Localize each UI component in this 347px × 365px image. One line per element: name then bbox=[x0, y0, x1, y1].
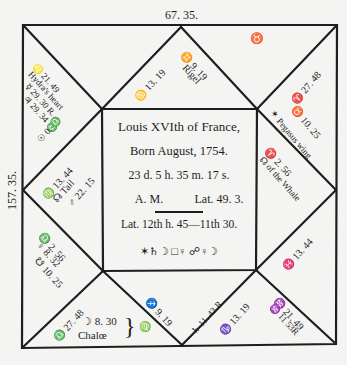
house-lower-left-star: Chalœ bbox=[78, 330, 107, 341]
birth-time: 23 d. 5 h. 35 m. 17 s. bbox=[103, 169, 255, 181]
house-latitudes: Lat. 12th h. 45—11th 30. bbox=[103, 219, 255, 231]
house-lower-left-sign: ♍ bbox=[139, 322, 151, 332]
top-degree: 67. 35. bbox=[165, 9, 198, 21]
center-info-box: Louis XVIth of France, Born August, 1754… bbox=[103, 110, 255, 270]
birth-date: Born August, 1754. bbox=[103, 145, 255, 158]
left-degree: 157. 35. bbox=[6, 171, 18, 210]
aspects-line: ✶♄☽ □♀ ☍♀☽ bbox=[103, 246, 255, 257]
house-top-right-tri: ♉ bbox=[250, 33, 264, 44]
divider-rule bbox=[155, 211, 203, 213]
subject-title: Louis XVIth of France, bbox=[103, 120, 255, 133]
house-lower-left-moon: ☽ 8. 30 bbox=[82, 316, 117, 327]
latitude: Lat. 49. 3. bbox=[143, 193, 295, 205]
brace: } bbox=[124, 314, 136, 338]
